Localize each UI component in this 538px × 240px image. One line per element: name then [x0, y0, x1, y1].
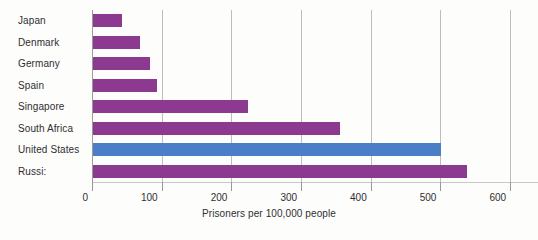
- tick-label-300: 300: [280, 192, 301, 204]
- bar-japan[interactable]: [93, 14, 122, 27]
- bar-fill: [93, 100, 248, 113]
- bar-denmark[interactable]: [93, 36, 140, 49]
- tick-label-0: 0: [82, 192, 92, 204]
- bar-series: [92, 10, 538, 182]
- tick-mark-300: [301, 182, 302, 191]
- bar-fill: [93, 36, 140, 49]
- tick-mark-500: [440, 182, 441, 191]
- bar-south-africa[interactable]: [93, 122, 340, 135]
- category-label-japan: Japan: [0, 15, 80, 26]
- bar-fill: [93, 143, 441, 156]
- bar-chart: JapanDenmarkGermanySpainSingaporeSouth A…: [0, 0, 538, 240]
- category-label-russi: Russi:: [0, 166, 80, 177]
- tick-mark-600: [510, 182, 511, 191]
- category-label-denmark: Denmark: [0, 37, 80, 48]
- tick-mark-0: [92, 182, 93, 191]
- bar-russi[interactable]: [93, 165, 467, 178]
- tick-label-400: 400: [350, 192, 371, 204]
- bar-fill: [93, 57, 150, 70]
- category-label-spain: Spain: [0, 80, 80, 91]
- category-label-germany: Germany: [0, 58, 80, 69]
- tick-label-600: 600: [489, 192, 510, 204]
- category-label-united-states: United States: [0, 144, 80, 155]
- bar-germany[interactable]: [93, 57, 150, 70]
- tick-mark-200: [231, 182, 232, 191]
- tick-label-100: 100: [141, 192, 162, 204]
- category-label-singapore: Singapore: [0, 101, 80, 112]
- bar-fill: [93, 14, 122, 27]
- tick-label-200: 200: [211, 192, 232, 204]
- bar-singapore[interactable]: [93, 100, 248, 113]
- bar-spain[interactable]: [93, 79, 157, 92]
- tick-mark-100: [162, 182, 163, 191]
- tick-mark-400: [371, 182, 372, 191]
- bar-fill: [93, 79, 157, 92]
- bar-united-states[interactable]: [93, 143, 441, 156]
- plot-area: [92, 10, 538, 182]
- x-axis-title: Prisoners per 100,000 people: [0, 208, 538, 220]
- bar-fill: [93, 165, 467, 178]
- category-axis-labels: JapanDenmarkGermanySpainSingaporeSouth A…: [0, 10, 86, 182]
- bar-fill: [93, 122, 340, 135]
- tick-label-500: 500: [420, 192, 441, 204]
- x-axis-line: [92, 182, 538, 183]
- category-label-south-africa: South Africa: [0, 123, 80, 134]
